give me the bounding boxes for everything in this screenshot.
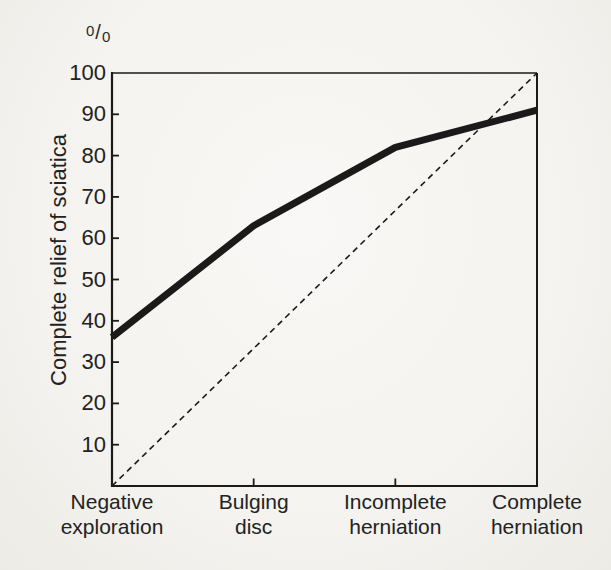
x-category-label: Complete herniation xyxy=(452,489,611,539)
y-tick-label: 10 xyxy=(40,432,106,458)
y-tick-label: 90 xyxy=(40,101,106,127)
y-tick-label: 50 xyxy=(40,267,106,293)
y-tick-label: 60 xyxy=(40,225,106,251)
reference-dashed-line xyxy=(112,73,537,486)
relief-data-line xyxy=(112,110,537,337)
y-tick-label: 70 xyxy=(40,184,106,210)
y-tick-label: 40 xyxy=(40,308,106,334)
chart-figure: 0/0 Complete relief of sciatica 10203040… xyxy=(0,0,611,570)
y-tick-label: 20 xyxy=(40,390,106,416)
y-tick-label: 30 xyxy=(40,349,106,375)
y-tick-label: 80 xyxy=(40,143,106,169)
y-tick-label: 100 xyxy=(40,60,106,86)
